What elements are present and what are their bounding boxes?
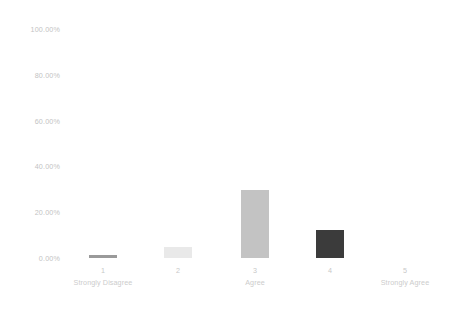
x-axis: 1 Strongly Disagree 2 3 Agree 4 5 Strong… <box>66 258 454 312</box>
x-tick-caption-5: Strongly Agree <box>350 278 460 287</box>
y-tick-label-60: 60.00% <box>35 116 60 125</box>
x-tick-5: 5 Strongly Agree <box>350 258 460 287</box>
bar-chart: 100.00% 80.00% 60.00% 40.00% 20.00% 0.00… <box>0 0 462 312</box>
bar-category-3 <box>241 190 269 258</box>
bar-category-4 <box>316 230 344 258</box>
y-tick-label-100: 100.00% <box>31 25 60 34</box>
y-tick-label-80: 80.00% <box>35 70 60 79</box>
bar-category-2 <box>164 247 192 258</box>
plot-area <box>66 29 454 258</box>
y-tick-label-20: 20.00% <box>35 208 60 217</box>
y-tick-label-40: 40.00% <box>35 162 60 171</box>
x-tick-number-5: 5 <box>350 266 460 275</box>
